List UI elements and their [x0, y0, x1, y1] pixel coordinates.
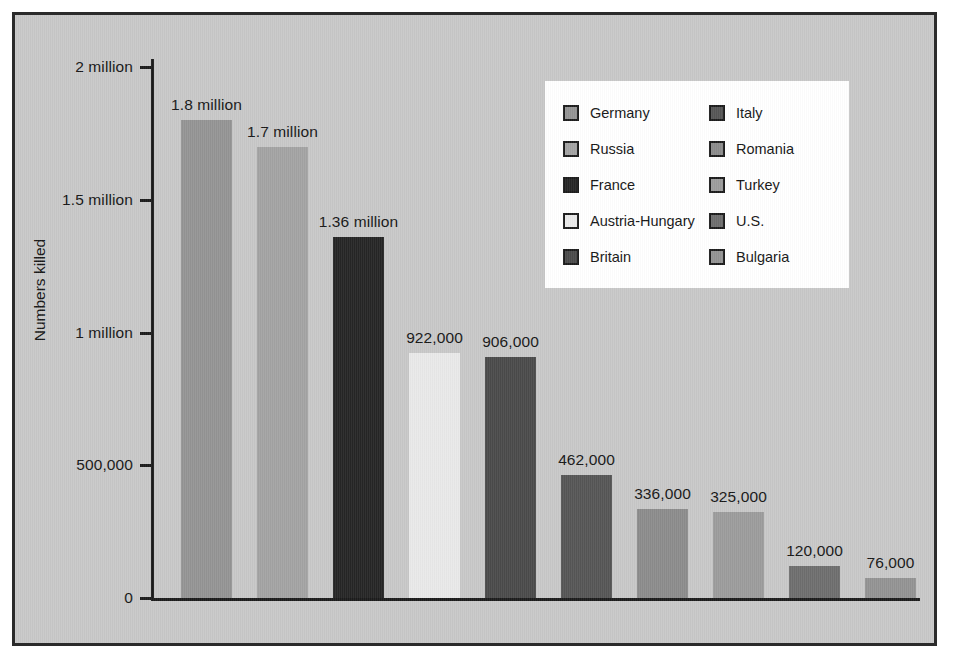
bar-value-label: 1.8 million — [171, 96, 242, 114]
chart-figure-frame: 0500,0001 million1.5 million2 million Nu… — [12, 12, 937, 646]
legend-item: Austria-Hungary — [563, 203, 703, 239]
legend-column-right: ItalyRomaniaTurkeyU.S.Bulgaria — [703, 95, 849, 288]
legend-item: Germany — [563, 95, 703, 131]
legend-item: Russia — [563, 131, 703, 167]
legend-item-label: Romania — [736, 141, 794, 157]
legend-color-swatch — [563, 105, 579, 121]
bar-chart-plot-area: 0500,0001 million1.5 million2 million Nu… — [15, 15, 934, 643]
y-axis-tick-mark — [140, 332, 154, 335]
legend-color-swatch — [709, 213, 725, 229]
legend-color-swatch — [709, 249, 725, 265]
legend-item-label: Italy — [736, 105, 763, 121]
legend-item-label: Britain — [590, 249, 631, 265]
bar — [257, 147, 308, 598]
bar — [713, 512, 764, 598]
legend-color-swatch — [563, 249, 579, 265]
bar-value-label: 1.36 million — [319, 213, 399, 231]
legend-item-label: Germany — [590, 105, 650, 121]
bar-value-label: 336,000 — [634, 485, 691, 503]
bar-value-label: 325,000 — [710, 488, 767, 506]
y-axis-tick-label: 1.5 million — [62, 191, 133, 209]
bar — [181, 120, 232, 598]
bar-value-label: 462,000 — [558, 451, 615, 469]
legend-item-label: Turkey — [736, 177, 780, 193]
bar — [485, 357, 536, 598]
legend-item-label: Russia — [590, 141, 634, 157]
bar — [789, 566, 840, 598]
legend-item: U.S. — [709, 203, 849, 239]
bar — [333, 237, 384, 598]
x-axis-baseline — [151, 598, 920, 601]
legend-item: Romania — [709, 131, 849, 167]
y-axis-title: Numbers killed — [31, 205, 49, 375]
y-axis-tick-mark — [140, 464, 154, 467]
bar — [409, 353, 460, 598]
y-axis-tick-mark — [140, 66, 154, 69]
legend-item-label: Austria-Hungary — [590, 213, 695, 229]
chart-legend: GermanyRussiaFranceAustria-HungaryBritai… — [545, 81, 849, 288]
legend-item-label: France — [590, 177, 635, 193]
legend-color-swatch — [563, 141, 579, 157]
legend-item: France — [563, 167, 703, 203]
legend-item-label: U.S. — [736, 213, 764, 229]
y-axis-tick-mark — [140, 199, 154, 202]
bar — [865, 578, 916, 598]
legend-column-left: GermanyRussiaFranceAustria-HungaryBritai… — [545, 95, 703, 288]
bar-value-label: 906,000 — [482, 333, 539, 351]
y-axis-tick-label: 2 million — [75, 58, 133, 76]
bar-value-label: 76,000 — [866, 554, 914, 572]
bar-value-label: 922,000 — [406, 329, 463, 347]
y-axis-tick-label: 0 — [124, 589, 133, 607]
legend-color-swatch — [709, 141, 725, 157]
legend-item: Britain — [563, 239, 703, 275]
legend-color-swatch — [563, 177, 579, 193]
y-axis-line — [151, 59, 154, 600]
legend-color-swatch — [563, 213, 579, 229]
bar — [561, 475, 612, 598]
bar — [637, 509, 688, 598]
bar-value-label: 1.7 million — [247, 123, 318, 141]
bar-value-label: 120,000 — [786, 542, 843, 560]
y-axis-tick-label: 1 million — [75, 324, 133, 342]
legend-item-label: Bulgaria — [736, 249, 789, 265]
legend-color-swatch — [709, 105, 725, 121]
legend-item: Italy — [709, 95, 849, 131]
legend-item: Bulgaria — [709, 239, 849, 275]
y-axis-tick-label: 500,000 — [76, 456, 133, 474]
y-axis-tick-mark — [140, 597, 154, 600]
legend-color-swatch — [709, 177, 725, 193]
legend-item: Turkey — [709, 167, 849, 203]
